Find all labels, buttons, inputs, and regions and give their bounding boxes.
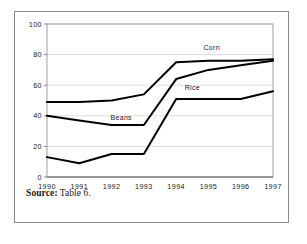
- ytick-label-0: 0: [38, 173, 42, 182]
- series-label-corn: Corn: [203, 44, 219, 51]
- ytick-label-100: 100: [29, 20, 42, 29]
- ytick-label-40: 40: [33, 111, 42, 120]
- series-label-rice: Rice: [185, 84, 200, 91]
- xtick-label-1994: 1994: [167, 182, 185, 191]
- xtick-label-1993: 1993: [135, 182, 153, 191]
- xtick-label-1997: 1997: [264, 182, 282, 191]
- xtick-label-1995: 1995: [200, 182, 218, 191]
- figure-panel: 0204060801001990199119921993199419951996…: [14, 11, 289, 223]
- ytick-label-60: 60: [33, 81, 42, 90]
- ytick-label-80: 80: [33, 50, 42, 59]
- xtick-label-1996: 1996: [232, 182, 250, 191]
- xtick-label-1992: 1992: [103, 182, 121, 191]
- source-value: Table 6.: [60, 188, 91, 198]
- source-label: Source:: [26, 188, 58, 198]
- series-label-beans: Beans: [111, 114, 133, 121]
- source-note: Source:Table 6.: [26, 188, 91, 198]
- ytick-label-20: 20: [33, 142, 42, 151]
- series-line-beans: [47, 61, 273, 125]
